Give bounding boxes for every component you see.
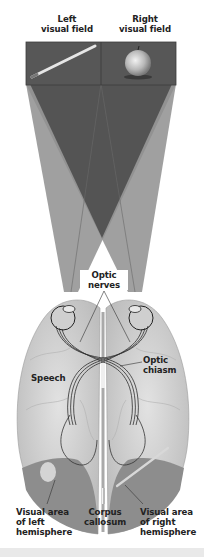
label-line: Speech <box>31 373 66 383</box>
apple-image-left-area <box>40 462 56 482</box>
label-line: hemisphere <box>16 527 72 537</box>
brain <box>17 300 189 534</box>
label-line: Left <box>30 14 104 24</box>
corpus-callosum-label: Corpus callosum <box>82 507 128 527</box>
label-line: Corpus <box>82 507 128 517</box>
label-line: callosum <box>82 517 128 527</box>
label-line: chiasm <box>143 365 176 375</box>
label-line: of left <box>16 517 72 527</box>
label-line: Optic <box>143 355 176 365</box>
caption-strip <box>0 548 204 557</box>
label-line: Optic <box>80 270 128 280</box>
visual-area-right-label: Visual area of right hemisphere <box>140 507 196 537</box>
label-line: nerves <box>80 280 128 290</box>
label-line: Right <box>108 14 182 24</box>
right-visual-field-label: Right visual field <box>108 14 182 34</box>
label-line: Visual area <box>16 507 72 517</box>
left-visual-field-label: Left visual field <box>30 14 104 34</box>
visual-field-panel <box>26 42 176 85</box>
optic-chiasm-label: Optic chiasm <box>143 355 176 375</box>
label-line: visual field <box>108 24 182 34</box>
visual-area-left-label: Visual area of left hemisphere <box>16 507 72 537</box>
optic-nerves-label: Optic nerves <box>80 270 128 290</box>
label-line: Visual area <box>140 507 196 517</box>
speech-label: Speech <box>31 373 66 383</box>
label-line: hemisphere <box>140 527 196 537</box>
label-line: of right <box>140 517 196 527</box>
light-beams <box>26 84 176 292</box>
label-line: visual field <box>30 24 104 34</box>
